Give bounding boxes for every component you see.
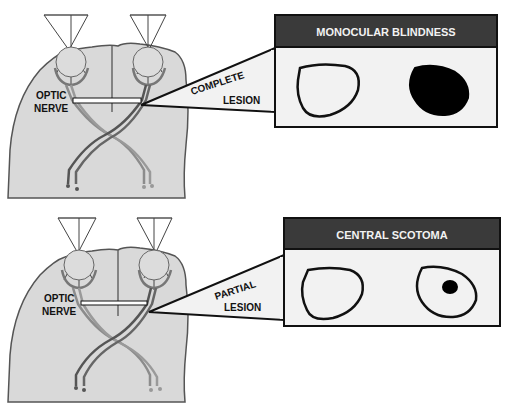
nerve-label-line1: OPTIC [36, 90, 67, 101]
lesion-marker [81, 301, 147, 305]
bottom-panel: OPTIC NERVE PARTIAL LESION CENTRAL SCOTO… [8, 218, 500, 402]
result-box: MONOCULAR BLINDNESS [275, 15, 497, 127]
result-title: MONOCULAR BLINDNESS [316, 26, 455, 38]
result-title: CENTRAL SCOTOMA [336, 229, 447, 241]
result-box: CENTRAL SCOTOMA [284, 218, 500, 326]
lesion-label-line2: LESION [224, 302, 261, 313]
optic-lesion-diagram: OPTIC NERVE COMPLETE LESION MONOCULAR BL… [0, 0, 508, 409]
nerve-label-line2: NERVE [34, 103, 69, 114]
lesion-label-line2: LESION [223, 95, 260, 106]
nerve-label-line2: NERVE [42, 306, 77, 317]
lesion-marker [73, 98, 141, 103]
top-panel: OPTIC NERVE COMPLETE LESION MONOCULAR BL… [8, 15, 497, 198]
central-scotoma-spot [442, 280, 458, 294]
nerve-label-line1: OPTIC [44, 293, 75, 304]
